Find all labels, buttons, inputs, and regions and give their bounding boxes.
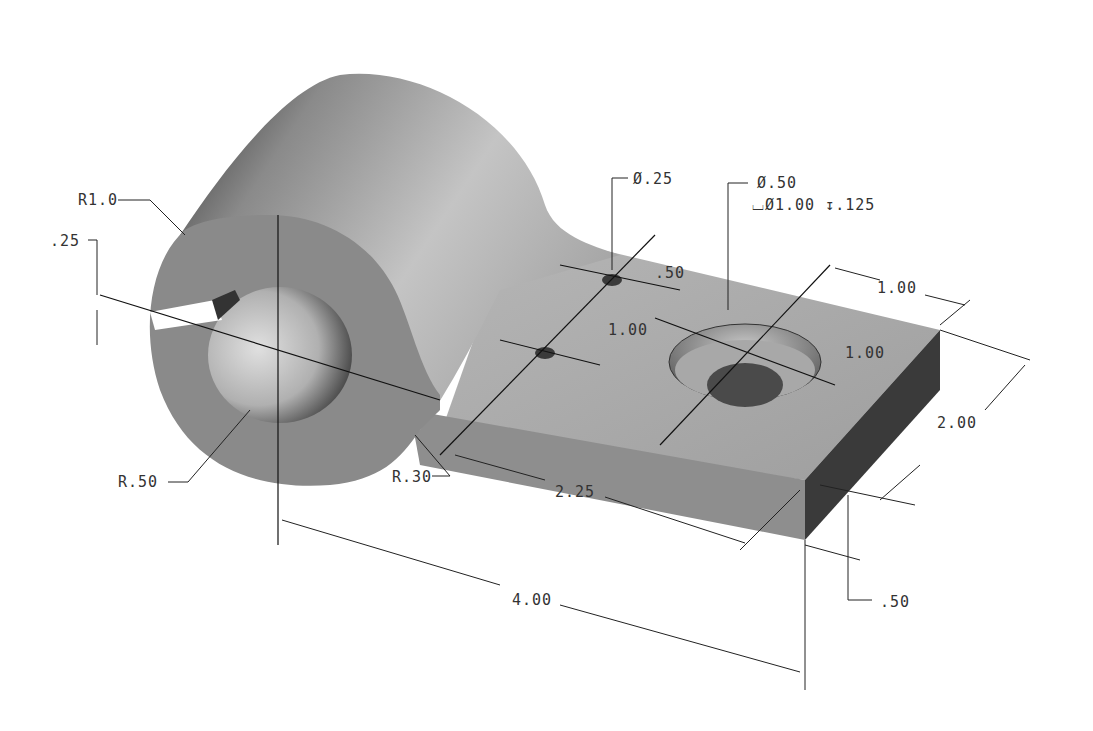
engineering-drawing: R1.0 .25 R.50 R.30 Ø.25 .50 1.00 Ø.50 ⌴Ø… xyxy=(0,0,1093,731)
dim-small-hole-dia: Ø.25 xyxy=(633,170,673,188)
dim-r-fillet: R.30 xyxy=(392,468,432,486)
dim-plate-thickness: .50 xyxy=(880,593,910,611)
part-body xyxy=(150,74,940,540)
dim-small-hole-spacing: .50 xyxy=(655,264,685,282)
dim-plate-length: 2.25 xyxy=(555,483,595,501)
dim-small-hole-offset: 1.00 xyxy=(608,321,648,339)
dim-plate-width: 2.00 xyxy=(937,414,977,432)
dim-cbore-hole-dia: Ø.50 xyxy=(757,174,797,192)
dim-cbore-spec: ⌴Ø1.00 ↧.125 xyxy=(752,196,875,214)
dim-cbore-from-end: 1.00 xyxy=(877,279,917,297)
dim-r-bore: R.50 xyxy=(118,473,158,491)
through-hole xyxy=(707,363,783,407)
dim-boss-slot: .25 xyxy=(50,232,80,250)
dim-overall-length: 4.00 xyxy=(512,591,552,609)
dim-cbore-from-edge: 1.00 xyxy=(845,344,885,362)
dim-r-outer: R1.0 xyxy=(78,191,118,209)
